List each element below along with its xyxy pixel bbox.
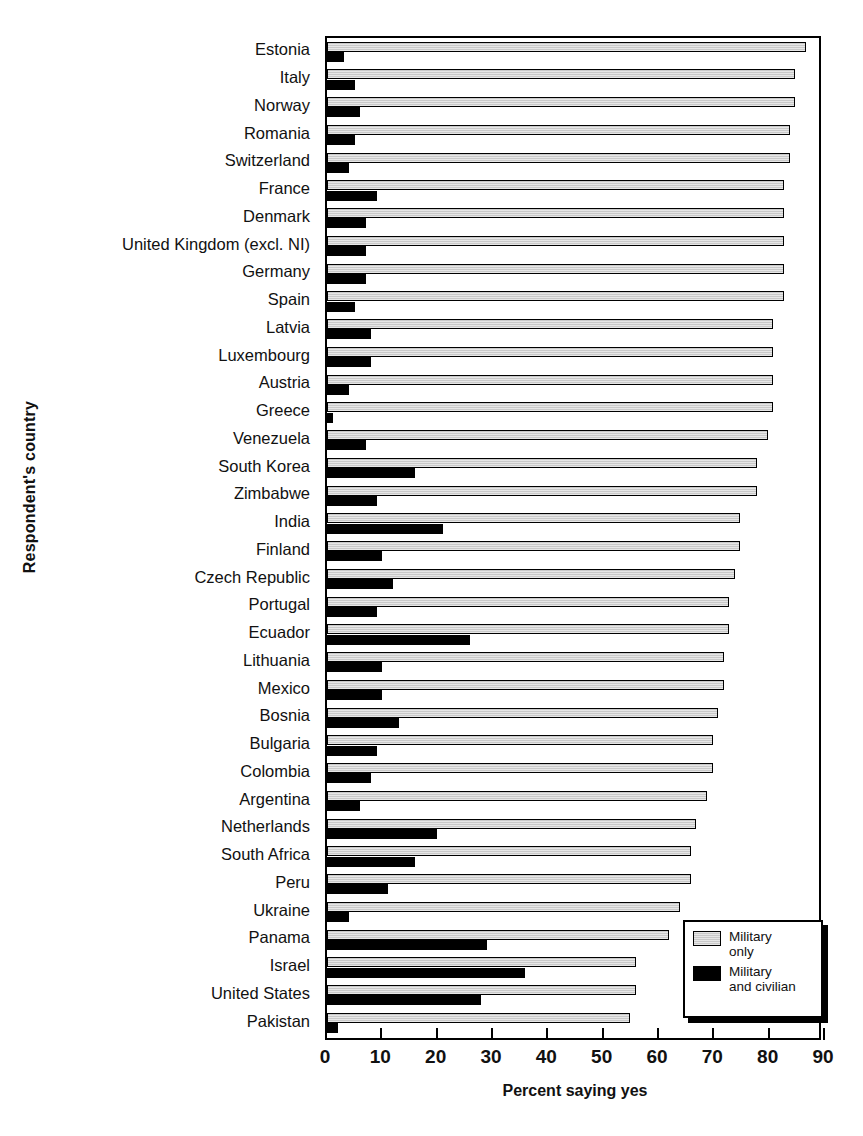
x-axis-tick-label: 70 bbox=[702, 1046, 723, 1068]
bar-military-only bbox=[327, 208, 784, 218]
bar-military-only bbox=[327, 624, 729, 634]
bar-group bbox=[327, 565, 819, 593]
category-label: Bosnia bbox=[260, 707, 310, 724]
bar-military-and-civilian bbox=[327, 468, 415, 478]
bar-military-and-civilian bbox=[327, 302, 355, 312]
bar-military-and-civilian bbox=[327, 357, 371, 367]
bar-military-and-civilian bbox=[327, 274, 366, 284]
bar-military-only bbox=[327, 513, 740, 523]
bar-group bbox=[327, 732, 819, 760]
bar-group bbox=[327, 343, 819, 371]
bar-military-only bbox=[327, 819, 696, 829]
bar-group bbox=[327, 815, 819, 843]
bar-military-only bbox=[327, 569, 735, 579]
x-axis-tick bbox=[546, 1028, 548, 1040]
x-axis-tick-label: 90 bbox=[812, 1046, 833, 1068]
category-label: France bbox=[259, 180, 310, 197]
bar-military-and-civilian bbox=[327, 329, 371, 339]
category-label: United States bbox=[211, 985, 310, 1002]
bar-military-only bbox=[327, 874, 691, 884]
category-label: Peru bbox=[275, 874, 310, 891]
bar-group bbox=[327, 454, 819, 482]
legend-label-military-and-civilian: Military and civilian bbox=[729, 964, 796, 994]
bar-military-and-civilian bbox=[327, 718, 399, 728]
bar-military-only bbox=[327, 791, 707, 801]
category-label: Luxembourg bbox=[218, 347, 310, 364]
legend-label-line-1: Military bbox=[729, 964, 772, 979]
category-label: Germany bbox=[242, 263, 310, 280]
bar-military-and-civilian bbox=[327, 801, 360, 811]
bar-military-only bbox=[327, 69, 795, 79]
category-label: Estonia bbox=[255, 41, 310, 58]
bar-group bbox=[327, 232, 819, 260]
category-label: Bulgaria bbox=[249, 735, 310, 752]
bar-military-and-civilian bbox=[327, 940, 487, 950]
x-axis-tick bbox=[823, 1028, 825, 1040]
bar-military-only bbox=[327, 458, 757, 468]
legend-swatch-military-only bbox=[693, 931, 721, 946]
category-label: Ukraine bbox=[253, 902, 310, 919]
category-label: Ecuador bbox=[249, 624, 310, 641]
bar-military-only bbox=[327, 902, 680, 912]
bar-group bbox=[327, 94, 819, 122]
bar-military-only bbox=[327, 430, 768, 440]
category-label: Venezuela bbox=[233, 430, 310, 447]
legend-label-line-2: and civilian bbox=[729, 979, 796, 994]
bar-military-only bbox=[327, 180, 784, 190]
bar-military-and-civilian bbox=[327, 607, 377, 617]
bar-group bbox=[327, 260, 819, 288]
x-axis-tick-label: 10 bbox=[370, 1046, 391, 1068]
bar-military-only bbox=[327, 347, 773, 357]
bar-military-only bbox=[327, 597, 729, 607]
bar-military-only bbox=[327, 375, 773, 385]
bar-military-and-civilian bbox=[327, 246, 366, 256]
bar-group bbox=[327, 871, 819, 899]
x-axis-tick bbox=[325, 1028, 327, 1040]
bar-group bbox=[327, 649, 819, 677]
x-axis-tick bbox=[712, 1028, 714, 1040]
category-label: Israel bbox=[270, 957, 310, 974]
category-label: Denmark bbox=[243, 208, 310, 225]
bar-military-and-civilian bbox=[327, 884, 388, 894]
bar-military-and-civilian bbox=[327, 163, 349, 173]
legend-label-military-only: Military only bbox=[729, 929, 772, 959]
legend-label-line-1: Military bbox=[729, 929, 772, 944]
bar-military-only bbox=[327, 42, 806, 52]
bar-military-only bbox=[327, 846, 691, 856]
x-axis-tick-label: 0 bbox=[320, 1046, 331, 1068]
category-label: India bbox=[274, 513, 310, 530]
bar-military-only bbox=[327, 402, 773, 412]
category-label: Switzerland bbox=[225, 152, 310, 169]
x-axis-tick bbox=[602, 1028, 604, 1040]
bar-military-and-civilian bbox=[327, 191, 377, 201]
x-axis-tick-label: 80 bbox=[757, 1046, 778, 1068]
category-label: Netherlands bbox=[221, 818, 310, 835]
legend-item-military-and-civilian: Military and civilian bbox=[693, 964, 813, 994]
x-axis-tick bbox=[657, 1028, 659, 1040]
bar-military-only bbox=[327, 680, 724, 690]
bar-military-only bbox=[327, 985, 636, 995]
bar-military-only bbox=[327, 291, 784, 301]
category-label: United Kingdom (excl. NI) bbox=[122, 236, 310, 253]
category-label: Portugal bbox=[249, 596, 310, 613]
category-label: Austria bbox=[259, 374, 310, 391]
bar-group bbox=[327, 676, 819, 704]
x-axis-tick-label: 60 bbox=[646, 1046, 667, 1068]
bar-military-only bbox=[327, 486, 757, 496]
x-axis-tick-label: 40 bbox=[536, 1046, 557, 1068]
x-axis-tick bbox=[768, 1028, 770, 1040]
category-label: Romania bbox=[244, 125, 310, 142]
bar-military-only bbox=[327, 708, 718, 718]
x-axis-tick-label: 50 bbox=[591, 1046, 612, 1068]
bar-military-and-civilian bbox=[327, 413, 333, 423]
bar-military-and-civilian bbox=[327, 690, 382, 700]
bar-military-and-civilian bbox=[327, 52, 344, 62]
bar-military-only bbox=[327, 1013, 630, 1023]
bar-military-only bbox=[327, 264, 784, 274]
bar-military-and-civilian bbox=[327, 135, 355, 145]
category-label: South Korea bbox=[218, 458, 310, 475]
bar-military-and-civilian bbox=[327, 773, 371, 783]
bar-group bbox=[327, 482, 819, 510]
chart-legend: Military only Military and civilian bbox=[683, 920, 823, 1018]
bar-military-and-civilian bbox=[327, 579, 393, 589]
